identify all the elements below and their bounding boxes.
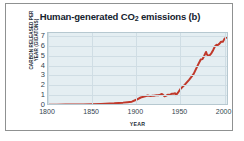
gridline-vertical bbox=[225, 32, 226, 104]
gridline-horizontal bbox=[48, 56, 228, 57]
x-axis-tick-label: 1900 bbox=[120, 108, 150, 115]
x-axis-tick-label: 2000 bbox=[209, 108, 239, 115]
x-axis-tick-label: 1950 bbox=[164, 108, 194, 115]
x-axis-ticks: 18001850190019502000 bbox=[47, 108, 228, 120]
gridline-vertical bbox=[136, 32, 137, 104]
y-axis-tick-label: 5 bbox=[33, 52, 45, 60]
chart-title-tail: emissions (b) bbox=[138, 11, 200, 22]
gridline-vertical bbox=[48, 32, 49, 104]
gridline-vertical bbox=[92, 32, 93, 104]
y-axis-tick-label: 6 bbox=[33, 42, 45, 50]
x-axis-label: YEAR bbox=[47, 121, 228, 127]
data-line-series bbox=[48, 32, 228, 105]
gridline-horizontal bbox=[48, 75, 228, 76]
plot-area bbox=[47, 32, 228, 105]
gridline-horizontal bbox=[48, 95, 228, 96]
figure-page: Human-generated CO2 emissions (b) CARBON… bbox=[0, 0, 244, 141]
y-axis-tick-label: 4 bbox=[33, 62, 45, 70]
figure-frame: Human-generated CO2 emissions (b) CARBON… bbox=[5, 3, 233, 131]
x-axis-tick-label: 1850 bbox=[76, 108, 106, 115]
gridline-horizontal bbox=[48, 85, 228, 86]
gridline-horizontal bbox=[48, 36, 228, 37]
gridline-vertical bbox=[180, 32, 181, 104]
gridline-horizontal bbox=[48, 66, 228, 67]
y-axis-ticks: 01234567 bbox=[32, 32, 45, 105]
y-axis-tick-label: 2 bbox=[33, 81, 45, 89]
chart-title-main: Human-generated CO bbox=[40, 11, 135, 22]
y-axis-tick-label: 1 bbox=[33, 91, 45, 99]
y-axis-tick-label: 7 bbox=[33, 32, 45, 40]
gridline-horizontal bbox=[48, 46, 228, 47]
x-axis-tick-label: 1800 bbox=[32, 108, 62, 115]
y-axis-tick-label: 3 bbox=[33, 71, 45, 79]
